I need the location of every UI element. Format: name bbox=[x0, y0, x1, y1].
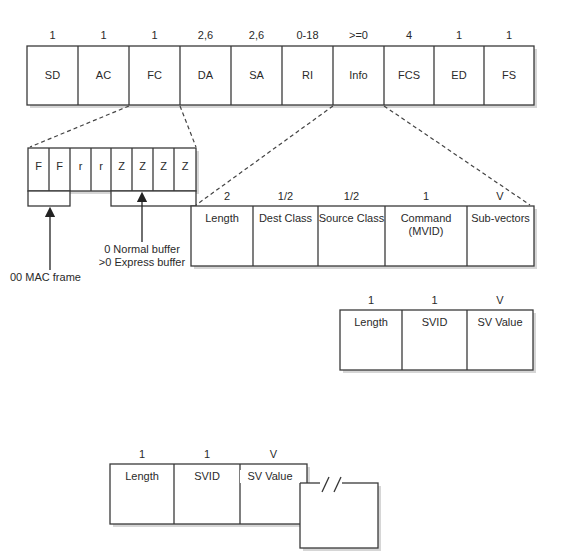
fc-bit-5: Z bbox=[132, 160, 153, 173]
frame-size-sa: 2,6 bbox=[231, 29, 282, 42]
frame-size-fs: 1 bbox=[484, 29, 534, 42]
frame-field-sd: SD bbox=[27, 69, 78, 82]
vector-field-dest-class: Dest Class bbox=[253, 212, 318, 225]
frame-size-ed: 1 bbox=[434, 29, 484, 42]
zzzz-annotation-line1: 0 Normal buffer bbox=[94, 243, 190, 256]
ff-annotation: 00 MAC frame bbox=[10, 271, 100, 284]
vector-field-length: Length bbox=[191, 212, 253, 225]
vector-size-command: 1 bbox=[385, 190, 467, 203]
fc-bit-7: Z bbox=[174, 160, 196, 173]
subvector2-field-svid: SVID bbox=[174, 470, 240, 483]
frame-size-da: 2,6 bbox=[180, 29, 231, 42]
frame-field-sa: SA bbox=[231, 69, 282, 82]
vector-field-command: Command bbox=[385, 212, 467, 225]
subvector1-field-length: Length bbox=[340, 316, 402, 329]
subvector1-size-sv-value: V bbox=[467, 294, 533, 307]
frame-size-ri: 0-18 bbox=[282, 29, 333, 42]
fc-bit-6: Z bbox=[153, 160, 174, 173]
fc-bit-4: Z bbox=[111, 160, 132, 173]
subvector2-field-length: Length bbox=[110, 470, 174, 483]
vector-size-sub-vectors: V bbox=[490, 190, 510, 203]
subvector1-field-svid: SVID bbox=[402, 316, 467, 329]
subvector2-size-sv-value: V bbox=[240, 448, 307, 461]
subvector2-field-sv-value: SV Value bbox=[240, 470, 300, 483]
frame-field-ed: ED bbox=[434, 69, 484, 82]
frame-size-fc: 1 bbox=[129, 29, 180, 42]
frame-field-fs: FS bbox=[484, 69, 534, 82]
vector-field-command-mvid: (MVID) bbox=[385, 225, 467, 238]
fc-bit-boxes bbox=[28, 148, 196, 206]
frame-field-ac: AC bbox=[78, 69, 129, 82]
fc-bit-1: F bbox=[49, 160, 70, 173]
fc-bit-2: r bbox=[70, 160, 91, 173]
frame-size-ac: 1 bbox=[78, 29, 129, 42]
frame-size-sd: 1 bbox=[27, 29, 78, 42]
vector-size-length: 2 bbox=[212, 190, 242, 203]
fc-bit-3: r bbox=[91, 160, 111, 173]
zzzz-annotation-line2: >0 Express buffer bbox=[94, 256, 190, 269]
frame-field-fc: FC bbox=[129, 69, 180, 82]
vector-field-source-class: Source Class bbox=[318, 212, 385, 225]
vector-field-sub-vectors: Sub-vectors bbox=[467, 212, 534, 225]
subvector1-field-sv-value: SV Value bbox=[467, 316, 533, 329]
frame-size-info: >=0 bbox=[333, 29, 384, 42]
frame-field-ri: RI bbox=[282, 69, 333, 82]
subvector1-size-length: 1 bbox=[340, 294, 402, 307]
subvector2-size-svid: 1 bbox=[174, 448, 240, 461]
frame-field-da: DA bbox=[180, 69, 231, 82]
frame-size-fcs: 4 bbox=[384, 29, 434, 42]
frame-field-info: Info bbox=[333, 69, 384, 82]
fc-bit-0: F bbox=[28, 160, 49, 173]
vector-size-source-class: 1/2 bbox=[318, 190, 385, 203]
frame-field-fcs: FCS bbox=[384, 69, 434, 82]
subvector2-size-length: 1 bbox=[110, 448, 174, 461]
subvector1-size-svid: 1 bbox=[402, 294, 467, 307]
vector-size-dest-class: 1/2 bbox=[253, 190, 318, 203]
